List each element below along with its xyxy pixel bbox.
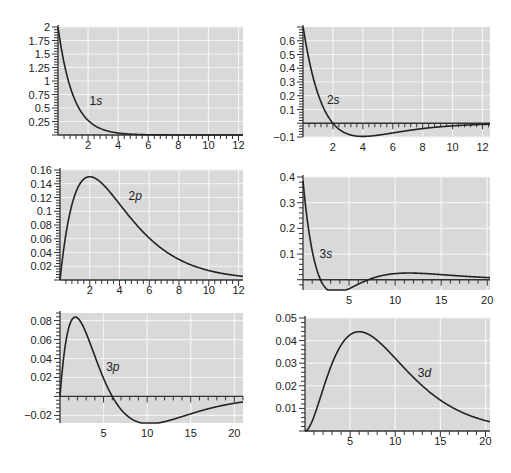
chart-3s: 51015200.10.20.30.43s: [280, 171, 494, 306]
curve-label: 3s: [320, 247, 333, 261]
y-tick-label: 0.1: [37, 205, 52, 217]
x-tick-label: 8: [175, 139, 181, 151]
chart-3p: 5101520−0.020.020.040.060.083p: [24, 311, 243, 439]
curve-label: 3p: [106, 360, 120, 374]
y-tick-label: 0.04: [31, 353, 52, 365]
y-tick-label: 1: [44, 75, 50, 87]
y-tick-label: 0.2: [280, 222, 295, 234]
y-tick-label: 0.06: [31, 334, 52, 346]
y-tick-label: 0.05: [276, 312, 297, 324]
y-tick-label: 0.5: [280, 49, 295, 61]
y-tick-label: 0.5: [35, 102, 50, 114]
plot-area: [305, 318, 490, 431]
y-tick-label: 0.3: [280, 76, 295, 88]
y-tick-label: 1.5: [35, 48, 50, 60]
chart-2p: 246810120.020.040.060.080.10.120.140.162…: [31, 164, 245, 296]
y-tick-label: 0.12: [31, 192, 52, 204]
x-tick-label: 4: [115, 139, 121, 151]
y-tick-label: 0.25: [29, 116, 50, 128]
x-tick-label: 12: [232, 139, 244, 151]
y-tick-label: 0.4: [280, 62, 295, 74]
y-tick-label: 0.75: [29, 89, 50, 101]
x-tick-label: 10: [446, 141, 458, 153]
y-tick-label: 1.25: [29, 62, 50, 74]
curve-label: 2p: [128, 189, 142, 203]
x-tick-label: 6: [146, 284, 152, 296]
x-tick-label: 6: [145, 139, 151, 151]
x-tick-label: 8: [176, 284, 182, 296]
x-tick-label: 4: [360, 141, 366, 153]
y-tick-label: 0.04: [31, 247, 52, 259]
y-tick-label: 2: [44, 21, 50, 33]
x-tick-label: 2: [330, 141, 336, 153]
x-tick-label: 20: [479, 435, 491, 447]
x-tick-label: 10: [202, 139, 214, 151]
y-tick-label: 0.03: [276, 357, 297, 369]
x-tick-label: 2: [85, 139, 91, 151]
y-tick-label: 0.1: [280, 104, 295, 116]
y-tick-label: 0.6: [280, 35, 295, 47]
x-tick-label: 2: [87, 284, 93, 296]
chart-2s: 24681012−0.10.10.20.30.40.50.62s: [273, 25, 490, 153]
x-tick-label: 20: [481, 294, 493, 306]
x-tick-label: 12: [476, 141, 488, 153]
y-tick-label: 0.02: [31, 371, 52, 383]
curve-label: 1s: [90, 94, 103, 108]
y-tick-label: 0.08: [31, 219, 52, 231]
x-tick-label: 12: [232, 284, 244, 296]
x-tick-label: 8: [420, 141, 426, 153]
y-tick-label: 0.02: [31, 260, 52, 272]
y-tick-label: 0.3: [280, 197, 295, 209]
y-tick-label: 0.01: [276, 402, 297, 414]
chart-3d: 51015200.010.020.030.040.053d: [276, 312, 492, 447]
y-tick-label: 0.14: [31, 178, 52, 190]
y-tick-label: 0.08: [31, 315, 52, 327]
x-tick-label: 5: [101, 427, 107, 439]
y-tick-label: 0.16: [31, 164, 52, 176]
radial-wavefunctions-figure: 246810120.250.50.7511.251.51.7521s246810…: [0, 0, 511, 473]
x-tick-label: 10: [203, 284, 215, 296]
y-tick-label: 1.75: [29, 35, 50, 47]
y-tick-label: −0.02: [24, 409, 52, 421]
x-tick-label: 10: [389, 294, 401, 306]
x-tick-label: 15: [185, 427, 197, 439]
y-tick-label: 0.2: [280, 90, 295, 102]
curve-label: 3d: [418, 366, 432, 380]
y-tick-label: −0.1: [273, 131, 295, 143]
x-tick-label: 15: [434, 435, 446, 447]
y-tick-label: 0.06: [31, 233, 52, 245]
x-tick-label: 20: [228, 427, 240, 439]
x-tick-label: 10: [389, 435, 401, 447]
y-tick-label: 0.4: [280, 171, 295, 183]
curve-label: 2s: [327, 93, 340, 107]
y-tick-label: 0.04: [276, 335, 297, 347]
y-tick-label: 0.02: [276, 380, 297, 392]
x-tick-label: 10: [141, 427, 153, 439]
x-tick-label: 5: [346, 294, 352, 306]
x-tick-label: 15: [435, 294, 447, 306]
chart-1s: 246810120.250.50.7511.251.51.7521s: [29, 21, 245, 151]
y-tick-label: 0.1: [280, 248, 295, 260]
x-tick-label: 6: [390, 141, 396, 153]
x-tick-label: 4: [116, 284, 122, 296]
x-tick-label: 5: [347, 435, 353, 447]
